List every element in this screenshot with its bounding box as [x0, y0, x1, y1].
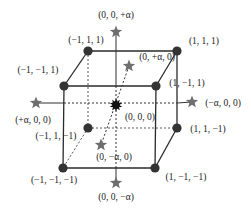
axial-star-icon	[95, 139, 107, 151]
point-label: (−1, 1, 1)	[68, 35, 103, 46]
cube-hidden-edges	[63, 51, 177, 168]
point-label: (−1, 1, −1)	[36, 131, 77, 142]
corner-dot-icon	[83, 46, 92, 55]
corner-dot-icon	[172, 123, 181, 132]
point-label: (0, −α, 0)	[96, 152, 132, 163]
point-label: (−1, −1, 1)	[18, 65, 59, 76]
center-point: (0, 0, 0)	[108, 96, 155, 123]
corner-dot-icon	[150, 163, 159, 172]
corner-dot-icon	[83, 123, 92, 132]
corner-dot-icon	[58, 163, 67, 172]
corner-dot-icon	[151, 81, 160, 90]
axial-star-icon	[110, 177, 122, 189]
axial-star-icon	[123, 60, 135, 72]
point-label: (0, +α, 0)	[139, 52, 175, 63]
point-label: (−α, 0, 0)	[205, 98, 241, 109]
point-label: (1, −1, −1)	[166, 172, 207, 183]
diagram-canvas: (−1, 1, 1)(1, 1, 1)(−1, −1, 1)(1, −1, 1)…	[0, 0, 251, 209]
point-label: (0, 0, 0)	[125, 112, 155, 123]
point-label: (1, 1, 1)	[189, 36, 219, 47]
axial-star-icon	[30, 97, 42, 109]
point-label: (0, 0, +α)	[98, 10, 134, 21]
corner-dot-icon	[59, 81, 68, 90]
corner-points: (−1, 1, 1)(1, 1, 1)(−1, −1, 1)(1, −1, 1)…	[18, 35, 226, 186]
point-label: (1, 1, −1)	[190, 124, 225, 135]
point-label: (+α, 0, 0)	[15, 115, 51, 126]
ccd-cube-diagram: (−1, 1, 1)(1, 1, 1)(−1, −1, 1)(1, −1, 1)…	[0, 0, 251, 209]
cube-solid-edges	[63, 51, 177, 168]
point-label: (1, −1, 1)	[169, 78, 204, 89]
point-label: (0, 0, −α)	[98, 192, 134, 203]
point-label: (−1, −1, −1)	[31, 175, 77, 186]
axial-star-icon	[186, 96, 198, 108]
